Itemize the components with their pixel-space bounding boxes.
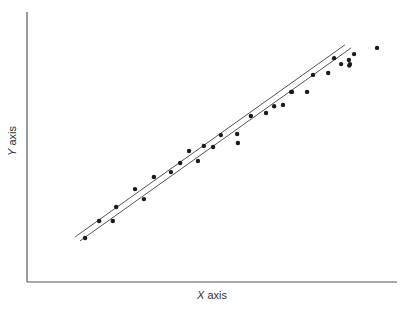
data-point bbox=[152, 175, 156, 179]
data-point bbox=[219, 133, 223, 137]
scatter-chart: X axis Y axis bbox=[0, 0, 410, 313]
data-point bbox=[347, 58, 351, 62]
data-point bbox=[114, 205, 118, 209]
data-point bbox=[97, 219, 101, 223]
data-point bbox=[272, 104, 276, 108]
data-point bbox=[332, 56, 336, 60]
regression-lines bbox=[75, 45, 351, 241]
data-points bbox=[83, 46, 379, 240]
data-point bbox=[281, 103, 285, 107]
x-axis-label: X axis bbox=[196, 289, 227, 301]
data-point bbox=[352, 52, 356, 56]
data-point bbox=[196, 159, 200, 163]
data-point bbox=[311, 73, 315, 77]
y-axis-label: Y axis bbox=[6, 126, 18, 156]
data-point bbox=[305, 90, 309, 94]
data-point bbox=[211, 145, 215, 149]
data-point bbox=[339, 62, 343, 66]
data-point bbox=[142, 197, 146, 201]
data-point bbox=[236, 141, 240, 145]
data-point bbox=[235, 132, 239, 136]
data-point bbox=[83, 236, 87, 240]
data-point bbox=[111, 219, 115, 223]
data-point bbox=[178, 161, 182, 165]
data-point bbox=[169, 170, 173, 174]
data-point bbox=[348, 62, 352, 66]
data-point bbox=[375, 46, 379, 50]
data-point bbox=[187, 149, 191, 153]
data-point bbox=[133, 187, 137, 191]
fit-line bbox=[80, 48, 351, 241]
data-point bbox=[249, 114, 253, 118]
data-point bbox=[202, 144, 206, 148]
data-point bbox=[326, 71, 330, 75]
data-point bbox=[289, 90, 293, 94]
data-point bbox=[264, 111, 268, 115]
